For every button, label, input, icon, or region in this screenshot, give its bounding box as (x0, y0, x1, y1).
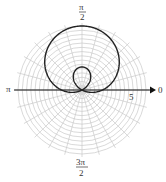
label-zero: 0 (158, 85, 163, 95)
label-half-pi-den: 2 (80, 12, 85, 22)
label-pi: π (6, 84, 11, 94)
label-three-half-pi-den: 2 (79, 168, 84, 178)
label-half-pi-num: π (79, 2, 84, 12)
label-three-half-pi-num: 3π (76, 157, 86, 167)
polar-chart: 0 π π 2 3π 2 5 (0, 0, 166, 182)
label-radial-five: 5 (129, 92, 134, 102)
